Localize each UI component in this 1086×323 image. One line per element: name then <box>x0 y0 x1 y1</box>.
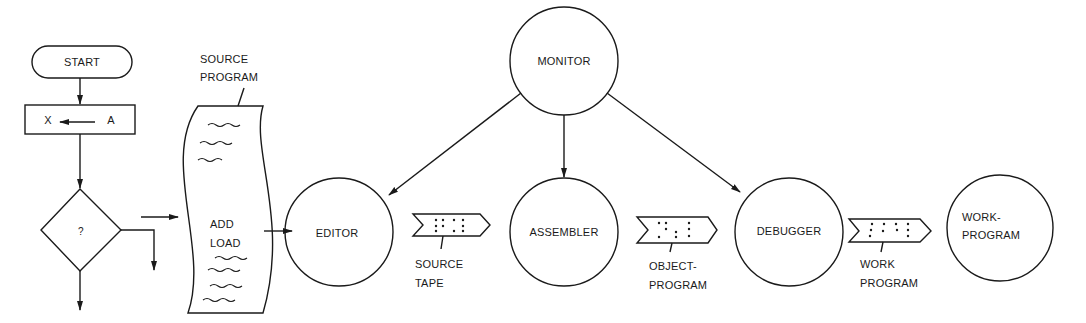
monitor-label: MONITOR <box>537 55 590 68</box>
editor-label: EDITOR <box>316 227 359 240</box>
object-program-label-2: PROGRAM <box>649 279 707 292</box>
assign-source-label: A <box>107 114 115 127</box>
source-tape <box>413 214 490 236</box>
arrow-monitor-to-editor <box>389 93 521 195</box>
work-program-tape <box>849 219 931 242</box>
debugger-label: DEBUGGER <box>757 225 822 238</box>
source-program-caption-1: SOURCE <box>200 53 248 66</box>
source-program-caption-2: PROGRAM <box>200 71 258 84</box>
work-program-node <box>947 175 1053 281</box>
work-program-tape-label-1: WORK <box>860 258 895 271</box>
source-tape-label-1: SOURCE <box>415 258 463 271</box>
source-program-document <box>183 106 272 313</box>
source-tape-label-2: TAPE <box>415 277 444 290</box>
arrow-monitor-to-debugger <box>607 93 740 192</box>
assign-box <box>25 105 135 134</box>
work-program-tape-label-2: PROGRAM <box>860 277 918 290</box>
decision-label: ? <box>78 225 84 238</box>
assign-target-label: X <box>44 114 52 127</box>
work-program-label-2: PROGRAM <box>962 229 1020 242</box>
source-caption-leader <box>238 88 244 106</box>
object-program-label-1: OBJECT- <box>649 260 697 273</box>
source-program-line-load: LOAD <box>210 237 241 250</box>
work-program-label-1: WORK- <box>962 211 1001 224</box>
source-program-line-add: ADD <box>210 218 234 231</box>
start-label: START <box>64 56 100 69</box>
diagram-canvas <box>0 0 1086 323</box>
object-program-tape <box>637 217 717 243</box>
arrow-decision-right <box>121 230 154 270</box>
assembler-label: ASSEMBLER <box>529 226 598 239</box>
